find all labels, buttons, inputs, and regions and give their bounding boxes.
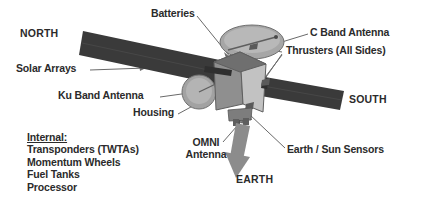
label-north: NORTH: [20, 28, 58, 39]
internal-list-item-processor: Processor: [27, 181, 139, 193]
label-thrusters: Thrusters (All Sides): [286, 45, 386, 56]
ku-band-antenna-dish-inner: [186, 78, 212, 104]
solar-array-south: [261, 77, 344, 110]
label-c-band-antenna: C Band Antenna: [310, 27, 389, 38]
satellite-diagram: NORTH SOUTH Batteries C Band Antenna Thr…: [0, 0, 429, 215]
label-batteries: Batteries: [151, 8, 195, 19]
label-ku-band-antenna: Ku Band Antenna: [58, 90, 143, 101]
label-solar-arrays: Solar Arrays: [16, 63, 76, 74]
internal-list-item-momentum-wheels: Momentum Wheels: [27, 156, 139, 168]
label-omni-antenna-line1: OMNI: [180, 136, 232, 148]
sun-sensor-box: [243, 118, 249, 125]
leader-solar-arrays: [90, 68, 146, 70]
label-south: SOUTH: [349, 94, 387, 105]
label-earth-sun-sensors: Earth / Sun Sensors: [287, 144, 384, 155]
label-omni-antenna-line2: Antenna: [180, 148, 232, 160]
c-band-feed-horn: [274, 35, 278, 39]
internal-list-item-transponders: Transponders (TWTAs): [27, 143, 139, 155]
label-earth: EARTH: [236, 174, 273, 185]
label-housing: Housing: [133, 107, 174, 118]
label-omni-antenna: OMNI Antenna: [180, 136, 232, 161]
internal-list-heading: Internal:: [27, 131, 139, 143]
leader-earth-sun-sensors: [249, 114, 285, 148]
internal-components-list: Internal: Transponders (TWTAs) Momentum …: [27, 131, 139, 193]
internal-list-item-fuel-tanks: Fuel Tanks: [27, 168, 139, 180]
